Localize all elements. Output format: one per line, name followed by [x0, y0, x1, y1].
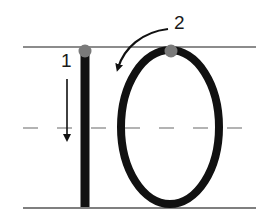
start-dot-1	[79, 45, 92, 58]
step-2-label: 2	[174, 12, 185, 33]
number-ten-stroke-diagram: 1 2	[0, 0, 260, 224]
stroke-2-oval	[121, 50, 219, 204]
start-dot-2	[165, 45, 178, 58]
step-1-label: 1	[61, 50, 72, 71]
